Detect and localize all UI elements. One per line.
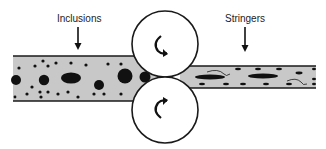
bottom-roller (132, 77, 198, 143)
top-roller (132, 11, 198, 77)
diagram-canvas (0, 0, 326, 149)
stringers-label: Stringers (225, 13, 265, 24)
arrow-down-icon (75, 27, 82, 50)
arrow-down-icon (242, 27, 249, 52)
inclusions-label: Inclusions (57, 13, 101, 24)
rolling-diagram: Inclusions Stringers (0, 0, 326, 149)
